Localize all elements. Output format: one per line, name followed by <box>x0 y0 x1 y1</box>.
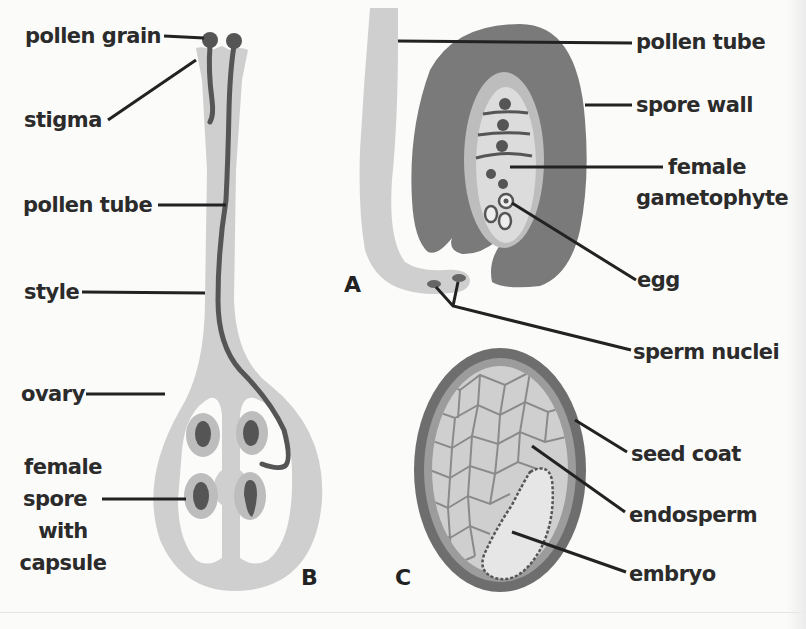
page-edge-shade <box>786 0 806 629</box>
label-female-spore-line4: capsule <box>18 551 108 575</box>
female-spore <box>243 420 259 446</box>
egg-nucleus <box>504 199 509 204</box>
label-egg: egg <box>637 268 680 292</box>
label-ovary: ovary <box>21 382 85 406</box>
panel-letter-a: A <box>344 272 361 297</box>
label-seed-coat: seed coat <box>631 442 741 466</box>
nucleus <box>486 169 496 179</box>
nucleus <box>497 119 509 131</box>
leader-line-sperm-nuclei <box>436 287 631 350</box>
label-pollen-tube-b: pollen tube <box>23 193 152 217</box>
label-female-spore-line2: spore <box>2 487 108 511</box>
seed-diagram <box>414 348 586 592</box>
synergid <box>499 213 511 229</box>
label-female-gametophyte-line1: female <box>668 155 746 179</box>
pistil-diagram <box>153 32 322 591</box>
label-female-spore-line3: with <box>18 519 108 543</box>
label-endosperm: endosperm <box>629 503 757 527</box>
label-pollen-tube-a: pollen tube <box>636 30 765 54</box>
sperm-nucleus <box>427 280 441 288</box>
nucleus <box>496 140 508 152</box>
ovule-diagram <box>360 8 587 294</box>
label-stigma: stigma <box>24 108 102 132</box>
sperm-nucleus <box>452 274 466 282</box>
panel-letter-b: B <box>301 565 318 590</box>
panel-letter-c: C <box>395 565 411 590</box>
label-sperm-nuclei: sperm nuclei <box>633 340 779 364</box>
leader-line-pollen-tube-a <box>398 41 632 43</box>
page-edge-rule <box>0 612 806 613</box>
leader-line-pollen-grain <box>164 36 204 38</box>
label-female-gametophyte-line2: gametophyte <box>636 186 788 210</box>
female-spore <box>193 482 209 510</box>
synergid <box>485 206 497 222</box>
label-female-spore-with-capsule: female spore with capsule <box>18 455 108 575</box>
nucleus <box>498 179 508 189</box>
female-spore <box>195 421 211 447</box>
label-spore-wall: spore wall <box>636 93 753 117</box>
leader-line-stigma <box>108 60 196 120</box>
leader-line-style <box>82 292 205 293</box>
nucleus <box>499 98 511 110</box>
label-pollen-grain: pollen grain <box>25 24 161 48</box>
label-embryo: embryo <box>629 562 716 586</box>
label-style: style <box>24 280 79 304</box>
label-female-spore-line1: female <box>18 455 108 479</box>
